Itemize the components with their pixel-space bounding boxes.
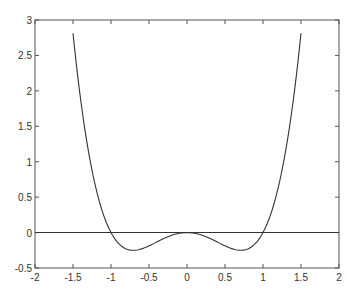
x-tick-label: 1.5 [294,272,308,283]
y-tick-label: 2.5 [18,50,32,61]
y-tick-label: -0.5 [15,263,33,274]
y-tick-label: 1 [26,157,32,168]
plot-area: -2-1.5-1-0.500.511.52 -0.500.511.522.53 [15,15,342,283]
x-tick-label: -0.5 [140,272,158,283]
x-tick-label: 0.5 [218,272,232,283]
x-tick-label: 2 [336,272,342,283]
x-tick-label: -1.5 [64,272,82,283]
y-tick-label: 3 [26,15,32,26]
y-tick-label: 0 [26,228,32,239]
y-tick-label: 2 [26,86,32,97]
x-tick-label: 1 [260,272,266,283]
x-tick-label: 0 [184,272,190,283]
axes-box [35,20,339,268]
y-tick-label: 1.5 [18,121,32,132]
y-tick-label: 0.5 [18,192,32,203]
line-chart: -2-1.5-1-0.500.511.52 -0.500.511.522.53 [0,0,358,293]
x-tick-label: -1 [107,272,116,283]
